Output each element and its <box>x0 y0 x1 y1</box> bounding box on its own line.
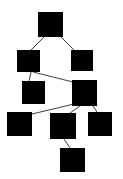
graph-node-n5[interactable] <box>72 80 97 106</box>
graph-node-n4[interactable] <box>22 81 45 104</box>
graph-node-n7[interactable] <box>50 113 76 139</box>
node-link-diagram <box>0 0 123 179</box>
graph-node-n3[interactable] <box>71 50 93 71</box>
graph-edge <box>70 106 80 113</box>
graph-edge <box>31 37 44 50</box>
graph-edge <box>64 139 70 148</box>
graph-node-n9[interactable] <box>60 148 85 172</box>
graph-node-n1[interactable] <box>38 12 63 37</box>
graph-node-n6[interactable] <box>7 112 32 136</box>
graph-node-n8[interactable] <box>88 112 112 136</box>
graph-edge <box>29 72 31 81</box>
graph-node-n2[interactable] <box>17 50 40 72</box>
graph-edge <box>61 37 74 50</box>
